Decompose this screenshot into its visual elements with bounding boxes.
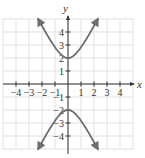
x-tick-label: −3 [24,87,35,98]
hyperbola-plot: −4−3−2−11234−4−3−2−11234 x y [0,0,145,158]
x-tick-label: 1 [79,87,84,98]
x-tick-label: 4 [118,87,123,98]
y-tick-label: 3 [59,40,64,51]
x-axis-label: x [136,78,142,90]
x-tick-label: −2 [37,87,48,98]
x-tick-label: −4 [11,87,22,98]
y-tick-label: 4 [59,27,64,38]
y-tick-label: −4 [53,131,64,142]
y-axis-label: y [62,2,68,14]
y-tick-label: −3 [53,118,64,129]
x-tick-label: 3 [105,87,110,98]
y-tick-label: −2 [53,105,64,116]
x-tick-label: 2 [92,87,97,98]
y-tick-label: −1 [53,92,64,103]
axes [3,16,134,154]
y-tick-label: 1 [59,66,64,77]
